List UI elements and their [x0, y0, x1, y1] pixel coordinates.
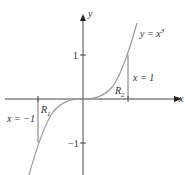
y-tick-label-1: 1 [73, 50, 78, 61]
cubic-diagram: x y 1 −1 y = x3 x = 1 x = −1 R1 R2 [0, 0, 185, 175]
curve-label: y = x3 [139, 27, 165, 39]
y-axis-arrow-icon [80, 14, 86, 21]
y-tick-label-neg1: −1 [68, 138, 79, 149]
region-r2-label: R2 [114, 85, 125, 99]
region-r1-label: R1 [40, 104, 51, 118]
label-x-1: x = 1 [132, 72, 154, 83]
x-axis-label: x [178, 93, 184, 104]
label-x-neg1: x = −1 [6, 113, 35, 124]
y-axis-label: y [87, 8, 93, 19]
